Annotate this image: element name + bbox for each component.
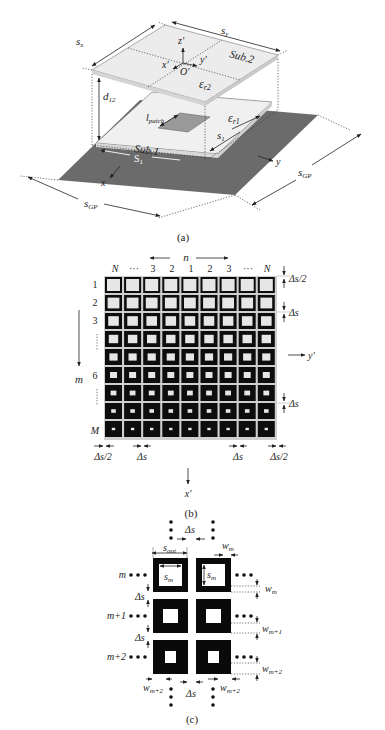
svg-text:2: 2: [93, 297, 98, 308]
label-y: y: [275, 156, 281, 167]
unit-cell-aperture: [242, 316, 253, 326]
label-y-prime: y': [199, 54, 207, 65]
label-w-right-m: wm: [265, 583, 277, 596]
label-n: n: [183, 251, 189, 263]
unit-cell-aperture: [107, 279, 120, 291]
unit-cell-aperture: [225, 372, 232, 378]
unit-cell-aperture: [261, 316, 272, 326]
unit-cell-aperture: [128, 335, 137, 343]
unit-cell-aperture: [164, 279, 177, 291]
unit-cell-aperture: [224, 353, 232, 360]
label-sy: sy: [221, 24, 229, 38]
unit-cell-aperture: [185, 316, 196, 326]
unit-cell-aperture: [130, 409, 135, 413]
dim-right-ds-2: Δs: [288, 398, 299, 409]
unit-cell-aperture: [188, 409, 193, 413]
unit-cell-aperture: [244, 391, 250, 396]
unit-cell-aperture: [109, 335, 118, 343]
label-origin: O': [180, 66, 190, 77]
unit-cell-aperture: [166, 316, 177, 326]
unit-cell-aperture: [185, 335, 194, 343]
caption-b: (b): [185, 507, 198, 520]
cell-m-left: [153, 558, 188, 592]
dim-right-half: Δs/2: [288, 273, 307, 284]
unit-cell-aperture: [244, 372, 251, 378]
unit-cell-aperture: [207, 428, 210, 430]
svg-text:1: 1: [93, 279, 98, 290]
unit-cell-aperture: [146, 298, 158, 309]
cell-m2-right: [196, 640, 231, 674]
svg-text:1: 1: [189, 263, 194, 274]
label-w-bottom-left: wm+2: [143, 682, 163, 695]
unit-cell-aperture: [149, 391, 155, 396]
unit-cell-aperture: [149, 409, 154, 413]
svg-text:2: 2: [170, 263, 175, 274]
unit-cell-aperture: [169, 409, 174, 413]
unit-cell-aperture: [167, 372, 174, 378]
unit-cell-aperture: [127, 316, 138, 326]
svg-text:3: 3: [151, 263, 156, 274]
label-sgp-left: sGP: [84, 197, 98, 211]
label-row-m1: m+1: [107, 610, 126, 621]
unit-cell-aperture: [222, 279, 235, 291]
unit-cell-aperture: [188, 428, 191, 430]
unit-cell-aperture: [109, 353, 117, 360]
svg-text:M: M: [90, 425, 100, 436]
unit-cell-aperture: [111, 391, 117, 396]
label-left-ds-1: Δs: [134, 591, 145, 602]
unit-cell-aperture: [187, 391, 193, 396]
caption-c: (c): [186, 713, 199, 726]
unit-cell-aperture: [203, 279, 216, 291]
unit-cell-aperture: [111, 409, 116, 413]
unit-cell-aperture: [223, 335, 232, 343]
cell-m2-left: [153, 640, 188, 674]
unit-cell-aperture: [150, 428, 153, 430]
cell-m1-right: [196, 599, 231, 633]
unit-cell-aperture: [241, 298, 253, 309]
svg-text:3: 3: [93, 315, 98, 326]
label-x-prime-b: x': [184, 488, 192, 499]
label-bottom-ds: Δs: [185, 688, 196, 699]
unit-cell-aperture: [226, 409, 231, 413]
unit-cell-aperture: [147, 335, 156, 343]
unit-cell-aperture: [204, 335, 213, 343]
dim-bottom-ds-right: Δs: [232, 451, 243, 462]
unit-cell-aperture: [245, 409, 250, 413]
unit-cell-grid: [105, 277, 275, 437]
unit-cell-aperture: [148, 372, 155, 378]
unit-cell-aperture: [169, 428, 172, 430]
svg-text:6: 6: [93, 370, 98, 381]
unit-cell-aperture: [222, 298, 234, 309]
unit-cell-aperture: [168, 391, 174, 396]
unit-cell-aperture: [243, 335, 252, 343]
svg-text:N: N: [263, 263, 272, 274]
unit-cell-aperture: [241, 279, 254, 291]
unit-cell-aperture: [127, 298, 139, 309]
label-d12: d12: [103, 90, 116, 104]
dim-bottom-half-right: Δs/2: [269, 451, 288, 462]
unit-cell-aperture: [186, 353, 194, 360]
unit-cell-aperture: [129, 353, 137, 360]
unit-cell-aperture: [264, 409, 269, 413]
unit-cell-aperture: [223, 316, 234, 326]
panel-c-unit-cells: Δs sout wm: [107, 520, 282, 726]
unit-cell-aperture: [263, 391, 269, 396]
unit-cell-aperture: [146, 316, 157, 326]
label-w-right-m1: wm+1: [262, 623, 282, 636]
unit-cell-aperture: [165, 298, 177, 309]
label-x-prime: x': [161, 59, 169, 70]
label-m: m: [75, 373, 83, 385]
label-w-bottom-right: wm+2: [220, 682, 240, 695]
unit-cell-aperture: [183, 279, 196, 291]
unit-cell-aperture: [148, 353, 156, 360]
unit-cell-aperture: [205, 353, 213, 360]
svg-text:···: ···: [129, 263, 139, 274]
unit-cell-aperture: [206, 372, 213, 378]
unit-cell-aperture: [186, 372, 193, 378]
unit-cell-aperture: [207, 409, 212, 413]
panel-b-array: n N ··· 3 2 1 2 3 ··· N 1 2 3 6 M m: [75, 251, 315, 520]
label-wm-top: wm: [222, 540, 234, 553]
svg-text:···: ···: [243, 263, 253, 274]
unit-cell-aperture: [203, 298, 215, 309]
label-left-ds-2: Δs: [134, 632, 145, 643]
